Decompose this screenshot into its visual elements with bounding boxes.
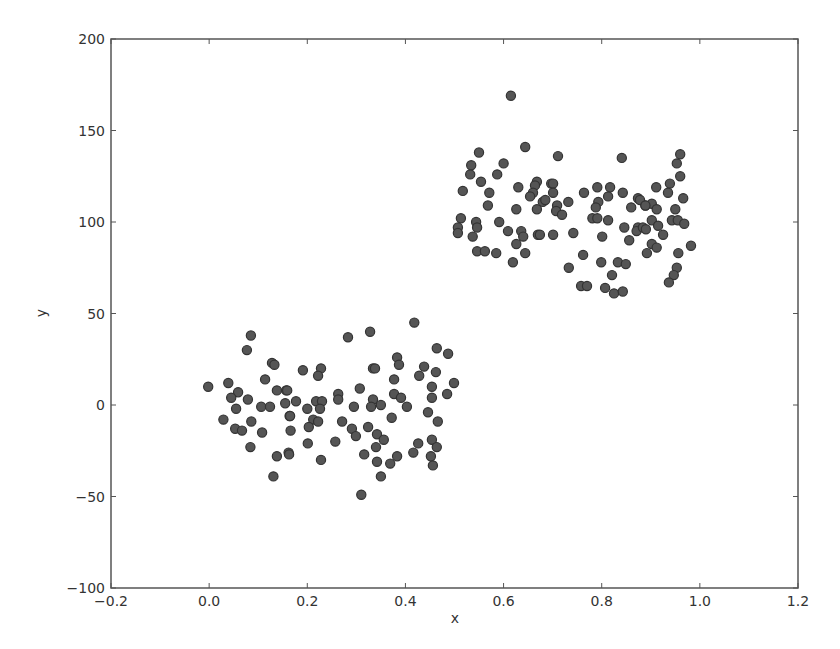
data-point [420, 362, 429, 371]
data-point [237, 426, 246, 435]
data-point [334, 395, 343, 404]
data-point [227, 393, 236, 402]
data-point [396, 393, 405, 402]
data-point [303, 439, 312, 448]
data-point [316, 455, 325, 464]
data-point [618, 287, 627, 296]
data-point [387, 413, 396, 422]
data-point [242, 346, 251, 355]
data-point [680, 219, 689, 228]
data-point [265, 402, 274, 411]
data-point [283, 386, 292, 395]
data-point [466, 170, 475, 179]
data-point [232, 404, 241, 413]
data-point [618, 188, 627, 197]
data-point [428, 461, 437, 470]
data-point [519, 232, 528, 241]
data-point [557, 210, 566, 219]
data-point [493, 170, 502, 179]
data-point [315, 404, 324, 413]
data-point [415, 371, 424, 380]
data-point [351, 432, 360, 441]
data-point [676, 150, 685, 159]
data-point [598, 232, 607, 241]
data-point [549, 179, 558, 188]
data-point [371, 443, 380, 452]
data-point [427, 382, 436, 391]
data-point [427, 393, 436, 402]
data-point [246, 443, 255, 452]
data-point [298, 366, 307, 375]
data-point [652, 243, 661, 252]
data-point [625, 236, 634, 245]
data-point [659, 230, 668, 239]
data-point [394, 360, 403, 369]
data-point [431, 368, 440, 377]
data-point [508, 258, 517, 267]
data-point [272, 452, 281, 461]
x-tick-label: 0.4 [394, 593, 416, 609]
data-point [349, 402, 358, 411]
data-point [679, 194, 688, 203]
data-point [243, 395, 252, 404]
data-point [627, 203, 636, 212]
data-point [473, 223, 482, 232]
data-point [247, 417, 256, 426]
y-tick-label: 0 [96, 397, 105, 413]
data-point [423, 408, 432, 417]
data-point [591, 203, 600, 212]
data-point [663, 188, 672, 197]
data-point [582, 281, 591, 290]
data-point [444, 349, 453, 358]
data-point [503, 227, 512, 236]
data-point [671, 205, 680, 214]
data-point [609, 289, 618, 298]
data-point [432, 443, 441, 452]
y-tick-label: −100 [67, 580, 105, 596]
data-point [564, 197, 573, 206]
data-point [601, 283, 610, 292]
data-point [314, 371, 323, 380]
data-point [549, 188, 558, 197]
data-point [372, 457, 381, 466]
data-point [286, 411, 295, 420]
data-point [204, 382, 213, 391]
data-point [360, 450, 369, 459]
data-point [476, 177, 485, 186]
x-tick-label: 1.0 [689, 593, 711, 609]
data-point [597, 258, 606, 267]
data-point [541, 195, 550, 204]
data-point [367, 402, 376, 411]
data-point [606, 183, 615, 192]
data-point [686, 241, 695, 250]
data-point [620, 223, 629, 232]
data-point [564, 263, 573, 272]
data-point [467, 161, 476, 170]
data-point [258, 428, 267, 437]
data-point [269, 472, 278, 481]
data-point [652, 183, 661, 192]
data-point [261, 375, 270, 384]
y-tick-label: 150 [78, 123, 105, 139]
data-point [281, 399, 290, 408]
data-point [664, 278, 673, 287]
data-point [303, 404, 312, 413]
data-point [521, 142, 530, 151]
data-point [291, 397, 300, 406]
data-point [453, 228, 462, 237]
data-point [432, 344, 441, 353]
data-point [521, 249, 530, 258]
data-point [474, 148, 483, 157]
data-point [617, 153, 626, 162]
data-point [376, 400, 385, 409]
y-tick-label: 50 [87, 306, 105, 322]
data-point [674, 249, 683, 258]
data-point [366, 327, 375, 336]
data-point [314, 417, 323, 426]
x-tick-label: 1.2 [787, 593, 809, 609]
y-tick-label: 100 [78, 214, 105, 230]
data-point [456, 214, 465, 223]
data-point [390, 375, 399, 384]
data-point [549, 230, 558, 239]
data-point [506, 91, 515, 100]
